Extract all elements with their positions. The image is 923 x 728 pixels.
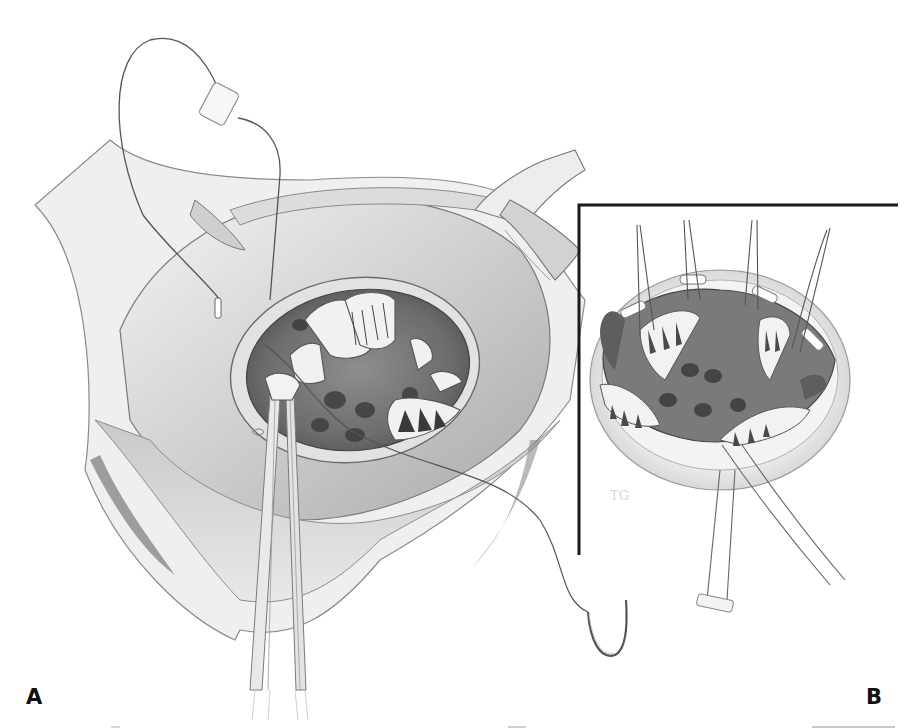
artist-signature: TG <box>610 488 629 503</box>
pledget-bottom <box>696 593 734 612</box>
surgical-illustration: TG <box>0 0 923 728</box>
panel-b-art: TG <box>579 205 898 613</box>
panel-a-art <box>35 38 627 720</box>
figure: TG A B <box>0 0 923 728</box>
panel-label-a: A <box>26 687 42 708</box>
cropped-caption-line <box>0 722 923 728</box>
panel-label-b: B <box>866 687 882 708</box>
